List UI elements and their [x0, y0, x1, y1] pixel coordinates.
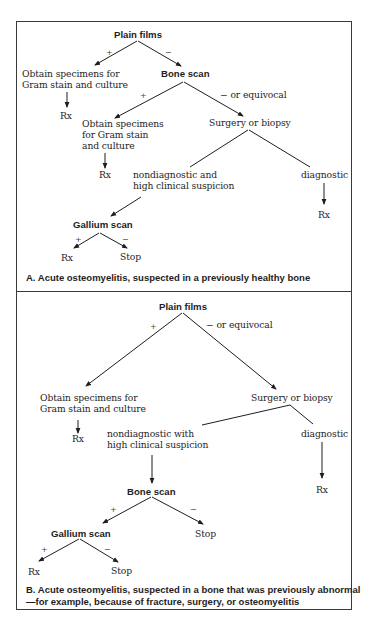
node-obtain-specimens-a: Obtain specimens for Gram stain and cult… [22, 68, 128, 90]
edge-label-positive: + [106, 48, 113, 57]
node-rx: Rx [61, 252, 73, 263]
node-stop: Stop [195, 528, 216, 539]
node-text-line: nondiagnostic and [133, 169, 234, 180]
edge-label-negative: − [190, 505, 197, 514]
node-rx: Rx [60, 110, 72, 121]
node-bone-scan-b: Bone scan [127, 486, 176, 497]
node-obtain-specimens-b: Obtain specimens for Gram stain and cult… [82, 118, 164, 151]
caption-line: —for example, because of fracture, surge… [26, 596, 360, 608]
node-surgery-or-biopsy-a: Surgery or biopsy [209, 117, 291, 128]
edge-label-negative: − [104, 545, 111, 554]
node-text-line: high clinical suspicion [133, 180, 234, 191]
node-surgery-or-biopsy-b: Surgery or biopsy [251, 392, 333, 403]
node-nondiagnostic-b: nondiagnostic with high clinical suspici… [107, 428, 208, 450]
caption-line: B. Acute osteomyelitis, suspected in a b… [26, 584, 360, 596]
node-text-line: Obtain specimens for [22, 68, 128, 79]
node-rx: Rx [99, 169, 111, 180]
edge-label-negative: − [165, 48, 172, 57]
node-text-line: Gram stain and culture [40, 403, 146, 414]
node-stop: Stop [120, 251, 141, 262]
panel-a-caption: A. Acute osteomyelitis, suspected in a p… [26, 272, 310, 284]
node-text-line: nondiagnostic with [107, 428, 208, 439]
node-nondiagnostic-a: nondiagnostic and high clinical suspicio… [133, 169, 234, 191]
edge-label-positive: + [140, 91, 147, 100]
node-rx: Rx [316, 484, 328, 495]
edge-label-positive: + [75, 235, 82, 244]
node-plain-films-b: Plain films [159, 301, 207, 312]
node-text-line: and culture [82, 140, 164, 151]
edge-label-negative-or-equivocal: − or equivocal [206, 319, 273, 330]
node-diagnostic-a: diagnostic [301, 169, 348, 180]
edge-label-negative-or-equivocal: − or equivocal [220, 89, 287, 100]
node-text-line: Gram stain and culture [22, 79, 128, 90]
node-obtain-specimens-c: Obtain specimens for Gram stain and cult… [40, 392, 146, 414]
node-stop: Stop [111, 565, 132, 576]
node-text-line: high clinical suspicion [107, 439, 208, 450]
edge-label-positive: + [150, 322, 157, 331]
node-gallium-scan-a: Gallium scan [73, 219, 133, 230]
node-diagnostic-b: diagnostic [301, 428, 348, 439]
node-text-line: Obtain specimens [82, 118, 164, 129]
node-bone-scan-a: Bone scan [161, 68, 210, 79]
edge-label-negative: − [122, 235, 129, 244]
panel-b-caption: B. Acute osteomyelitis, suspected in a b… [26, 584, 360, 607]
node-rx: Rx [28, 566, 40, 577]
edge-label-positive: + [41, 545, 48, 554]
node-plain-films-a: Plain films [114, 29, 162, 40]
node-rx: Rx [318, 209, 330, 220]
edge-label-positive: + [110, 505, 117, 514]
node-rx: Rx [72, 433, 84, 444]
node-gallium-scan-b: Gallium scan [51, 528, 111, 539]
node-text-line: for Gram stain [82, 129, 164, 140]
node-text-line: Obtain specimens for [40, 392, 146, 403]
